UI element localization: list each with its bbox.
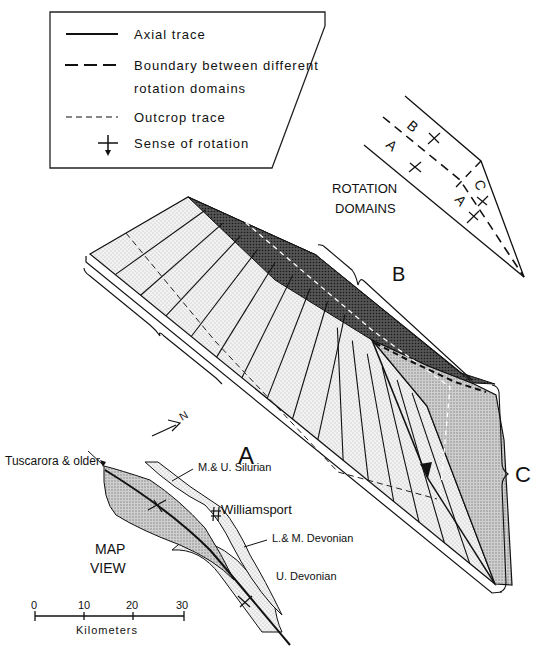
rotation-domains-title-line2: DOMAINS [335, 201, 396, 216]
scale-tick-0: 0 [31, 599, 37, 611]
map-view: N Tuscarora & older M.& U. Silurian Will… [5, 408, 353, 645]
label-williamsport: Williamsport [221, 502, 292, 517]
scale-unit-label: Kilometers [76, 624, 138, 636]
north-label: N [177, 408, 190, 422]
inset-label-a-right: A [452, 192, 471, 210]
rotation-domains-inset: B A C A ROTATION DOMAINS [332, 96, 524, 277]
inset-label-c: C [471, 178, 489, 193]
legend: Axial trace Boundary between different r… [50, 12, 325, 168]
north-arrow-icon: N [152, 408, 190, 436]
map-view-title-line1: MAP [95, 541, 125, 557]
map-view-title-line2: VIEW [90, 560, 127, 576]
legend-boundary-label-line2: rotation domains [134, 81, 246, 96]
inset-rotation-cross-icon [409, 133, 488, 223]
scale-bar: 0 10 20 30 Kilometers [31, 599, 188, 636]
rotation-domains-title-line1: ROTATION [332, 181, 397, 196]
legend-outcrop-label: Outcrop trace [134, 110, 226, 125]
inset-label-b: B [404, 117, 421, 135]
inset-label-a-left: A [383, 136, 401, 155]
label-silurian: M.& U. Silurian [198, 461, 271, 473]
label-tuscarora: Tuscarora & older [5, 454, 100, 468]
scale-tick-20: 20 [126, 599, 138, 611]
legend-sense-label: Sense of rotation [134, 136, 249, 151]
brace-label-c: C [515, 462, 531, 487]
figure-canvas: Axial trace Boundary between different r… [0, 0, 541, 651]
label-u-devonian: U. Devonian [276, 570, 337, 582]
inset-boundary-dashed [383, 117, 524, 277]
brace-label-b: B [392, 263, 405, 285]
legend-axial-trace-label: Axial trace [134, 27, 206, 42]
legend-boundary-label-line1: Boundary between different [134, 58, 319, 73]
scale-tick-30: 30 [176, 599, 188, 611]
scale-tick-10: 10 [78, 599, 90, 611]
label-lm-devonian: L.& M. Devonian [272, 532, 353, 544]
